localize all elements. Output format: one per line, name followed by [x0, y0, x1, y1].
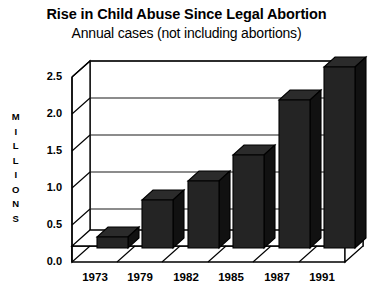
- bar-1991: [324, 57, 366, 248]
- bar-1979: [142, 190, 184, 248]
- x-axis-tick-label: 1973: [72, 271, 118, 283]
- x-axis-tick-label: 1987: [254, 271, 300, 283]
- x-axis-tick-label: 1979: [117, 271, 163, 283]
- chart-container: Rise in Child Abuse Since Legal Abortion…: [0, 0, 373, 305]
- x-axis-tick-label: 1985: [208, 271, 254, 283]
- bar-1985: [233, 145, 275, 248]
- x-axis-tick-label: 1982: [163, 271, 209, 283]
- x-axis-tick-label: 1991: [299, 271, 345, 283]
- plot-3d-frame: [0, 0, 373, 305]
- plot-area: [0, 0, 373, 305]
- bar-1987: [279, 90, 321, 248]
- bar-1982: [188, 171, 230, 248]
